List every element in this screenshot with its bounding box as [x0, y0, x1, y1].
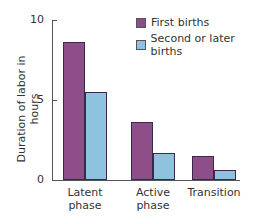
- x-tick-label: Latentphase: [55, 186, 115, 212]
- bar-first-births: [131, 122, 153, 180]
- legend-item: Second or later births: [136, 32, 264, 58]
- y-tick: [52, 20, 57, 21]
- y-tick-label: 0: [24, 173, 44, 186]
- legend-label: Second or later births: [151, 32, 264, 58]
- x-tick-label: Activephase: [123, 186, 183, 212]
- bar-second-births: [214, 170, 236, 180]
- legend: First birthsSecond or later births: [136, 16, 264, 61]
- bar-first-births: [63, 42, 85, 180]
- legend-label: First births: [151, 16, 209, 29]
- bar-second-births: [153, 153, 175, 180]
- legend-item: First births: [136, 16, 264, 29]
- bar-second-births: [85, 92, 107, 180]
- y-tick-label: 5: [24, 93, 44, 106]
- y-axis-label: Duration of labor in hours: [15, 39, 41, 179]
- y-tick: [52, 180, 57, 181]
- x-tick-label: Transition: [184, 186, 244, 199]
- x-axis: [52, 180, 240, 181]
- y-tick-label: 10: [24, 13, 44, 26]
- bar-first-births: [192, 156, 214, 180]
- legend-swatch: [136, 40, 146, 50]
- legend-swatch: [136, 18, 146, 28]
- y-tick: [52, 100, 57, 101]
